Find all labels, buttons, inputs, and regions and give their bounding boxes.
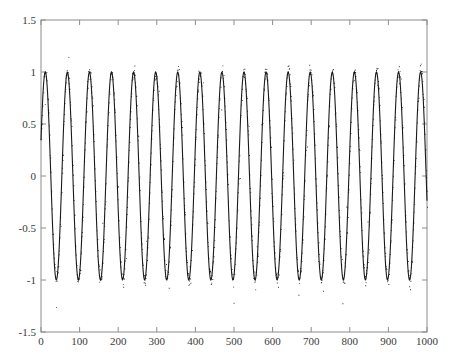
ytick-label-0: -1.5	[19, 326, 37, 338]
ytick-label-2: -0.5	[19, 222, 37, 234]
ytick-label-3: 0	[31, 170, 37, 182]
ytick-label-6: 1.5	[22, 14, 36, 26]
xtick-label-5: 500	[226, 335, 243, 347]
xtick-label-2: 200	[110, 335, 127, 347]
xtick-label-0: 0	[38, 335, 44, 347]
xtick-label-4: 400	[187, 335, 204, 347]
xtick-label-10: 1000	[416, 335, 439, 347]
ytick-label-5: 1	[31, 66, 37, 78]
chart-figure: 01002003004005006007008009001000-1.5-1-0…	[0, 0, 453, 362]
xtick-label-1: 100	[71, 335, 88, 347]
figure-background	[0, 0, 453, 362]
plot-svg: 01002003004005006007008009001000-1.5-1-0…	[0, 0, 453, 362]
xtick-label-7: 700	[303, 335, 320, 347]
ytick-label-4: 0.5	[22, 118, 36, 130]
xtick-label-3: 300	[149, 335, 166, 347]
ytick-label-1: -1	[27, 274, 36, 286]
xtick-label-8: 800	[342, 335, 359, 347]
xtick-label-9: 900	[380, 335, 397, 347]
xtick-label-6: 600	[264, 335, 281, 347]
